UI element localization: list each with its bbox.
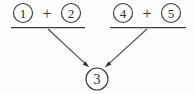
circled-number-2-label: 2 (68, 6, 75, 21)
circled-number-3-result: 3 (86, 68, 108, 90)
figure-container: Circled number addition grouping diagram… (0, 0, 194, 94)
right-group: 4 + 5 (110, 4, 186, 28)
right-arrow (105, 29, 147, 67)
circled-number-1-label: 1 (20, 6, 27, 21)
circled-number-1: 1 (14, 4, 33, 23)
circled-number-4: 4 (114, 4, 133, 23)
plus-icon-right: + (142, 5, 151, 22)
left-group: 1 + 2 (11, 4, 85, 28)
circled-number-5-label: 5 (168, 6, 175, 21)
circled-number-3-label: 3 (94, 72, 101, 87)
plus-icon-left: + (42, 5, 51, 22)
circled-number-5: 5 (162, 4, 181, 23)
diagram-canvas: Circled number addition grouping diagram… (0, 0, 194, 94)
circled-number-4-label: 4 (120, 6, 127, 21)
circled-number-2: 2 (62, 4, 81, 23)
right-arrow-shaft (108, 29, 147, 65)
left-arrow-shaft (48, 29, 87, 65)
left-arrow (48, 29, 89, 67)
